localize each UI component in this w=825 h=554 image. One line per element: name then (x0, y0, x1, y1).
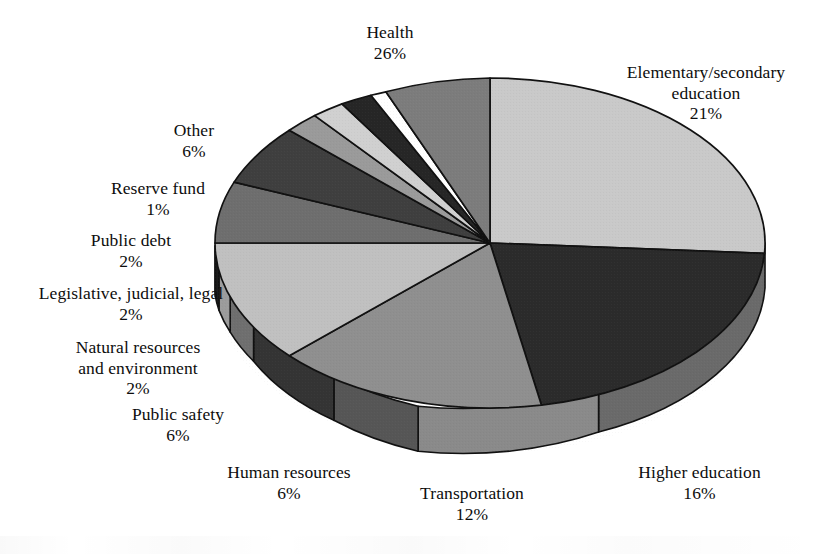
label-elementary-secondary-education-value: 21% (592, 103, 820, 124)
label-public-safety: Public safety 6% (108, 404, 248, 445)
label-elementary-secondary-education: Elementary/secondary education 21% (592, 62, 820, 124)
label-health-value: 26% (335, 43, 445, 64)
label-transportation-value: 12% (396, 504, 548, 525)
label-other: Other 6% (140, 120, 248, 161)
label-elementary-secondary-education-name2: education (592, 83, 820, 104)
label-higher-education-value: 16% (612, 483, 787, 504)
label-human-resources-value: 6% (205, 483, 373, 504)
label-transportation: Transportation 12% (396, 483, 548, 524)
pie-chart: Health 26% Elementary/secondary educatio… (0, 0, 825, 554)
label-higher-education: Higher education 16% (612, 462, 787, 503)
label-public-safety-value: 6% (108, 425, 248, 446)
label-natural-resources-and-environment-value: 2% (48, 378, 228, 399)
label-legislative-judicial-legal: Legislative, judicial, legal 2% (10, 283, 252, 324)
label-legislative-judicial-legal-name: Legislative, judicial, legal (10, 283, 252, 304)
label-health-name: Health (335, 22, 445, 43)
label-public-debt: Public debt 2% (55, 230, 207, 271)
label-reserve-fund-name: Reserve fund (82, 178, 234, 199)
label-natural-resources-and-environment: Natural resources and environment 2% (48, 337, 228, 399)
scan-grain-overlay (215, 78, 765, 408)
label-public-safety-name: Public safety (108, 404, 248, 425)
label-elementary-secondary-education-name: Elementary/secondary (592, 62, 820, 83)
label-public-debt-value: 2% (55, 251, 207, 272)
label-natural-resources-and-environment-name2: and environment (48, 358, 228, 379)
label-other-value: 6% (140, 141, 248, 162)
label-reserve-fund-value: 1% (82, 199, 234, 220)
label-human-resources-name: Human resources (205, 462, 373, 483)
label-health: Health 26% (335, 22, 445, 63)
label-reserve-fund: Reserve fund 1% (82, 178, 234, 219)
label-human-resources: Human resources 6% (205, 462, 373, 503)
label-natural-resources-and-environment-name: Natural resources (48, 337, 228, 358)
label-higher-education-name: Higher education (612, 462, 787, 483)
label-transportation-name: Transportation (396, 483, 548, 504)
label-public-debt-name: Public debt (55, 230, 207, 251)
label-other-name: Other (140, 120, 248, 141)
label-legislative-judicial-legal-value: 2% (10, 304, 252, 325)
